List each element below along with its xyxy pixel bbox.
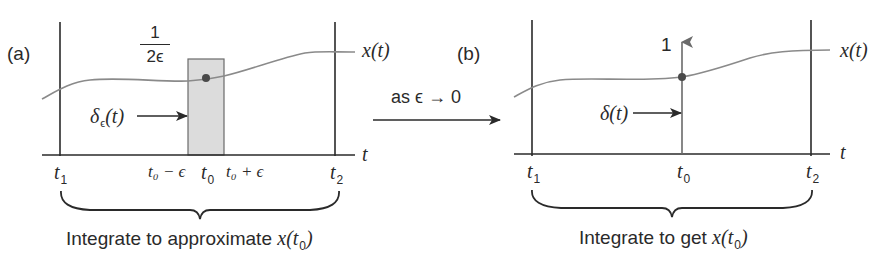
tick-label-t2: t2 <box>330 162 343 182</box>
caption-math: x(t <box>277 227 298 249</box>
caption-sub: 0 <box>299 239 306 253</box>
caption-sub: 0 <box>734 238 741 252</box>
tick-sub: 0 <box>684 172 691 186</box>
tick-label-t0-plus-eps: t₀ + ϵ <box>226 163 263 180</box>
pulse-label: δϵ(t) <box>90 106 124 126</box>
pulse-label-arg: (t) <box>105 105 124 127</box>
transition-label: as ϵ → 0 <box>391 88 461 106</box>
curve-label-b: x(t) <box>840 40 868 60</box>
panel-b <box>514 20 830 217</box>
curve-label-a: x(t) <box>362 40 390 60</box>
tick-main: t <box>806 160 812 182</box>
impulse-label: δ(t) <box>600 103 628 123</box>
tick-label-t1: t1 <box>527 161 540 181</box>
pulse-rectangle <box>188 59 224 155</box>
impulse-height-label: 1 <box>661 35 672 54</box>
diagram-graphics <box>0 0 877 258</box>
panel-b-label: (b) <box>457 44 480 63</box>
tick-sub: 1 <box>61 173 68 187</box>
caption-math: x(t <box>712 226 733 248</box>
tick-label-t0-minus-eps: t₀ − ϵ <box>148 163 185 180</box>
panel-a-label: (a) <box>7 44 30 63</box>
tick-main: t <box>330 161 336 183</box>
sample-point <box>678 73 686 81</box>
tick-sub: 0 <box>208 173 215 187</box>
panel-a <box>42 22 355 219</box>
tick-sub: 2 <box>813 172 820 186</box>
signal-curve <box>514 50 830 97</box>
pulse-height-fraction: 1 2ϵ <box>140 24 170 65</box>
tick-label-t0: t0 <box>201 162 214 182</box>
caption-close: ) <box>306 227 313 249</box>
caption-b: Integrate to get x(t0) <box>579 227 748 247</box>
fraction-numerator: 1 <box>140 24 170 44</box>
axis-label-b: t <box>840 142 846 162</box>
tick-main: t <box>54 161 60 183</box>
sample-point <box>202 74 210 82</box>
tick-main: t <box>677 160 683 182</box>
axis-label-a: t <box>362 144 368 164</box>
tick-label-t0: t0 <box>677 161 690 181</box>
sifting-property-diagram: (a) 1 2ϵ δϵ(t) x(t) t t1 t₀ − ϵ t0 t₀ + … <box>0 0 877 258</box>
tick-label-t2: t2 <box>806 161 819 181</box>
tick-label-t1: t1 <box>54 162 67 182</box>
tick-main: t <box>201 161 207 183</box>
caption-close: ) <box>741 226 748 248</box>
pulse-label-epsilon: ϵ <box>100 117 105 129</box>
integration-brace <box>532 190 812 217</box>
fraction-denominator: 2ϵ <box>140 44 170 65</box>
integration-brace <box>61 191 339 219</box>
pulse-label-delta: δ <box>90 105 99 127</box>
caption-text: Integrate to get <box>579 227 712 248</box>
caption-a: Integrate to approximate x(t0) <box>66 228 313 248</box>
tick-sub: 2 <box>337 173 344 187</box>
caption-text: Integrate to approximate <box>66 228 277 249</box>
tick-sub: 1 <box>534 172 541 186</box>
tick-main: t <box>527 160 533 182</box>
